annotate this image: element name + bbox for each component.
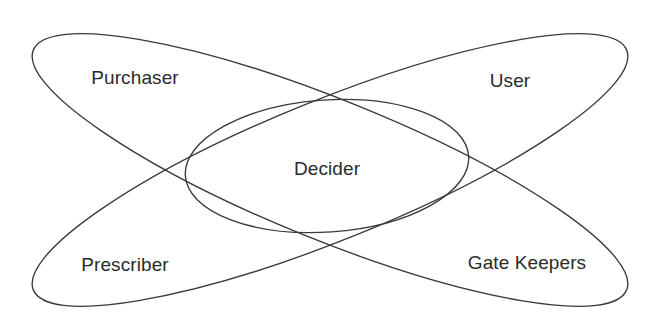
label-gate-keepers: Gate Keepers [468, 253, 586, 272]
label-user: User [490, 71, 531, 90]
label-prescriber: Prescriber [81, 255, 169, 274]
label-purchaser: Purchaser [91, 68, 179, 87]
venn-diagram: Purchaser User Decider Prescriber Gate K… [0, 0, 653, 328]
label-decider: Decider [294, 159, 360, 178]
